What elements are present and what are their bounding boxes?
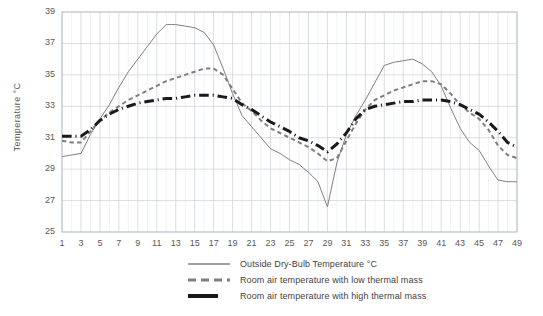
y-tick-label: 25 bbox=[33, 226, 55, 236]
y-tick-label: 31 bbox=[33, 132, 55, 142]
legend-swatch-low-mass-dashed-line bbox=[186, 274, 232, 286]
x-tick-label: 27 bbox=[299, 238, 317, 248]
legend-item-outside: Outside Dry-Bulb Temperature °C bbox=[186, 256, 526, 272]
x-tick-label: 19 bbox=[224, 238, 242, 248]
x-tick-label: 49 bbox=[508, 238, 526, 248]
temperature-line-chart: Temperature °C Outside Dry-Bulb Temperat… bbox=[0, 0, 543, 316]
x-tick-label: 43 bbox=[451, 238, 469, 248]
y-tick-label: 39 bbox=[33, 6, 55, 16]
x-tick-label: 37 bbox=[394, 238, 412, 248]
legend-label-outside: Outside Dry-Bulb Temperature °C bbox=[240, 259, 377, 269]
x-tick-label: 31 bbox=[337, 238, 355, 248]
x-tick-label: 33 bbox=[356, 238, 374, 248]
x-tick-label: 3 bbox=[72, 238, 90, 248]
legend-swatch-outside-solid-line bbox=[186, 258, 232, 270]
x-tick-label: 5 bbox=[91, 238, 109, 248]
legend-label-low-thermal-mass: Room air temperature with low thermal ma… bbox=[240, 275, 423, 285]
x-tick-label: 11 bbox=[148, 238, 166, 248]
x-tick-label: 23 bbox=[262, 238, 280, 248]
y-tick-label: 29 bbox=[33, 163, 55, 173]
y-tick-label: 27 bbox=[33, 195, 55, 205]
legend-item-high-thermal-mass: Room air temperature with high thermal m… bbox=[186, 288, 526, 304]
x-tick-label: 45 bbox=[470, 238, 488, 248]
x-tick-label: 39 bbox=[413, 238, 431, 248]
x-tick-label: 41 bbox=[432, 238, 450, 248]
x-tick-label: 17 bbox=[205, 238, 223, 248]
legend-label-high-thermal-mass: Room air temperature with high thermal m… bbox=[240, 291, 426, 301]
y-tick-label: 37 bbox=[33, 37, 55, 47]
x-tick-label: 47 bbox=[489, 238, 507, 248]
x-tick-label: 15 bbox=[186, 238, 204, 248]
legend-swatch-high-mass-solid-line bbox=[186, 290, 232, 302]
x-tick-label: 25 bbox=[281, 238, 299, 248]
legend-item-low-thermal-mass: Room air temperature with low thermal ma… bbox=[186, 272, 526, 288]
y-tick-label: 33 bbox=[33, 100, 55, 110]
x-tick-label: 7 bbox=[110, 238, 128, 248]
y-tick-label: 35 bbox=[33, 69, 55, 79]
x-tick-label: 1 bbox=[53, 238, 71, 248]
x-tick-label: 29 bbox=[318, 238, 336, 248]
x-tick-label: 9 bbox=[129, 238, 147, 248]
x-tick-label: 35 bbox=[375, 238, 393, 248]
x-tick-label: 21 bbox=[243, 238, 261, 248]
x-tick-label: 13 bbox=[167, 238, 185, 248]
chart-legend: Outside Dry-Bulb Temperature °C Room air… bbox=[186, 256, 526, 304]
